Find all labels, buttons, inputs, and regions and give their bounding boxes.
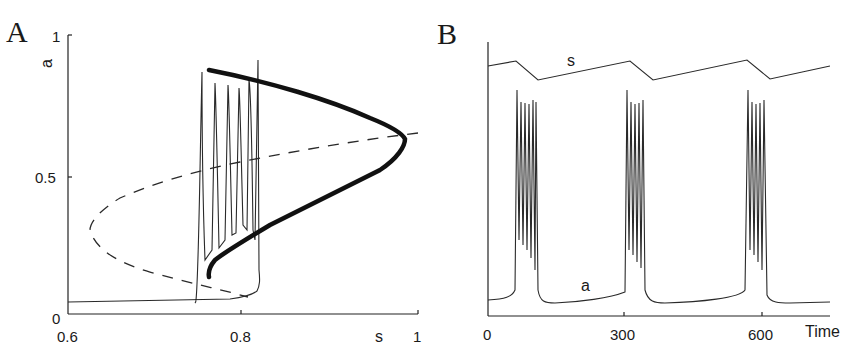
panel-a-ytick-label: 0: [52, 310, 60, 327]
panel-a-xtick-label: 0.8: [230, 328, 251, 345]
panel-a-xtick-label: 0.6: [57, 328, 78, 345]
panel-a-ytick-label: 1: [52, 28, 60, 45]
panel-b-letter: B: [437, 17, 457, 50]
trajectory: [68, 60, 260, 303]
panel-a-ytick-label: 0.5: [35, 169, 56, 186]
s-trace-label: s: [567, 52, 575, 69]
panel-a-letter: A: [6, 15, 28, 48]
a-trace: [488, 90, 830, 303]
panel-b: B 0 300 600 Time s a: [437, 17, 840, 343]
figure: A 1 0.5 0 0.6 0.8 1 s a B 0 300 600: [0, 0, 857, 360]
unstable-branch: [90, 133, 418, 297]
s-trace: [488, 60, 830, 80]
panel-a-xlabel: s: [375, 328, 383, 345]
panel-a-ylabel: a: [38, 59, 55, 68]
panel-a: A 1 0.5 0 0.6 0.8 1 s a: [6, 15, 421, 345]
panel-a-xtick-label: 1: [413, 328, 421, 345]
panel-b-xtick-label: 0: [483, 326, 491, 343]
panel-b-xtick-label: 600: [748, 326, 773, 343]
panel-b-xlabel: Time: [805, 323, 840, 340]
a-trace-label: a: [581, 277, 590, 294]
panel-b-xtick-label: 300: [610, 326, 635, 343]
